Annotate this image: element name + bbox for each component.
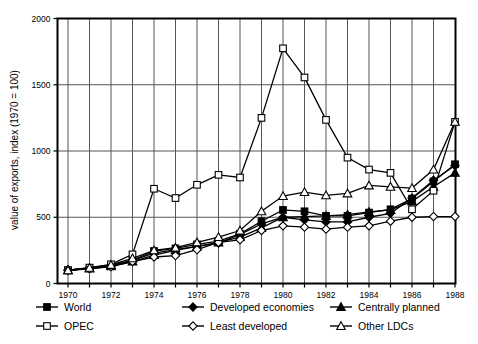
x-tick-label-1980: 1980 (274, 290, 293, 300)
data-point-marker-open-square (237, 174, 244, 181)
data-point-marker-open-square (215, 172, 222, 179)
y-axis-label: value of exports, index (1970 = 100) (9, 70, 20, 230)
exports-index-line-chart: 0500100015002000 19701972197419761978198… (0, 0, 478, 344)
data-point-marker-open-square (323, 117, 330, 124)
x-tick-label-1978: 1978 (231, 290, 250, 300)
data-point-marker-open-square (366, 166, 373, 173)
x-tick-label-1972: 1972 (102, 290, 121, 300)
y-tick-label-1500: 1500 (32, 80, 51, 90)
x-tick-label-1976: 1976 (188, 290, 207, 300)
data-point-marker-open-square (280, 45, 287, 52)
x-tick-label-1982: 1982 (317, 290, 336, 300)
data-point-marker-open-square (301, 74, 308, 81)
data-point-marker-open-square (409, 206, 416, 213)
y-tick-label-0: 0 (46, 279, 51, 289)
legend-label: Developed economies (210, 301, 314, 313)
data-point-marker-open-square (194, 181, 201, 188)
y-tick-label-1000: 1000 (32, 146, 51, 156)
y-tick-label-2000: 2000 (32, 14, 51, 24)
data-point-marker-open-square (387, 170, 394, 177)
data-point-marker-open-square (258, 115, 265, 122)
x-tick-label-1988: 1988 (446, 290, 465, 300)
x-tick-label-1984: 1984 (360, 290, 379, 300)
x-tick-label-1986: 1986 (403, 290, 422, 300)
legend-label: OPEC (64, 320, 94, 332)
legend-label: Centrally planned (358, 301, 440, 313)
x-tick-label-1974: 1974 (145, 290, 164, 300)
data-point-marker-open-square (172, 195, 179, 202)
legend-label: Least developed (210, 320, 287, 332)
data-point-marker-open-square (44, 323, 51, 330)
data-point-marker-open-square (344, 154, 351, 161)
data-point-marker-filled-square (44, 304, 51, 311)
y-tick-label-500: 500 (36, 212, 50, 222)
x-tick-label-1970: 1970 (59, 290, 78, 300)
legend-label: World (64, 301, 91, 313)
legend-label: Other LDCs (358, 320, 413, 332)
chart-figure: 0500100015002000 19701972197419761978198… (0, 0, 478, 344)
data-point-marker-open-square (430, 187, 437, 194)
data-point-marker-open-square (151, 185, 158, 192)
